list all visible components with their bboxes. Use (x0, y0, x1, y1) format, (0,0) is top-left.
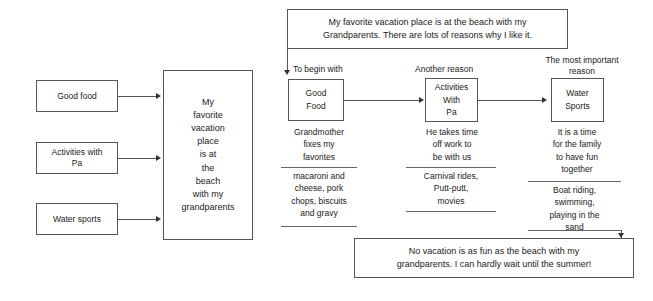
connector-column2-to-column3 (478, 100, 543, 101)
arrowhead-column1-to-column2 (419, 97, 424, 103)
diagram-canvas: Good food Activities with Pa Water sport… (0, 0, 653, 301)
reason-box-good-food[interactable]: Good Food (288, 79, 344, 121)
detail-column3-line3: to have fun (556, 152, 598, 162)
detail-column3-line1: It is a time (558, 127, 597, 137)
detail-column1-line3: favorites (303, 152, 335, 162)
example-column2-line1: Carnival rides, (424, 171, 478, 181)
input-box-water-sports-label: Water sports (50, 214, 104, 225)
example-column3-line2: swimming, (554, 197, 594, 207)
transition-column3-line2: reason (569, 66, 595, 76)
rule-column2-upper (406, 167, 496, 168)
thesis-box[interactable]: My favorite vacation place is at the bea… (163, 70, 253, 240)
detail-text-column1: Grandmother fixes my favorites (281, 126, 357, 163)
transition-label-column1: To begin with (293, 64, 343, 75)
arrowhead-topic-to-column1 (284, 70, 290, 75)
transition-label-column2: Another reason (415, 64, 473, 75)
input-box-activities-line2: Pa (72, 158, 82, 168)
example-column3-line3: playing in the (549, 210, 599, 220)
arrowhead-good-food (156, 93, 161, 99)
input-box-activities-label: Activities with Pa (48, 147, 105, 169)
reason-box-activities[interactable]: Activities With Pa (425, 78, 478, 122)
connector-column1-to-column2 (344, 100, 420, 101)
input-box-water-sports[interactable]: Water sports (36, 203, 118, 235)
reason-box-good-food-label: Good Food (303, 87, 330, 113)
reason-box-water-sports[interactable]: Water Sports (551, 78, 604, 122)
reason-box-good-food-line2: Food (306, 101, 325, 111)
thesis-line-7: beach (196, 176, 221, 186)
thesis-line-2: favorite (193, 110, 223, 120)
thesis-line-9: grandparents (181, 202, 234, 212)
input-box-good-food-label: Good food (54, 91, 100, 102)
detail-column3-line2: for the family (553, 139, 602, 149)
rule-column3-upper (528, 181, 621, 182)
thesis-line-1: My (202, 97, 214, 107)
transition-column3-line1: The most important (545, 55, 618, 65)
thesis-line-8: with my (193, 189, 224, 199)
topic-sentence-text: My favorite vacation place is at the bea… (320, 16, 535, 42)
reason-box-activities-line1: Activities (435, 82, 469, 92)
reason-box-activities-line2: With (443, 95, 460, 105)
transition-label-column3: The most important reason (527, 55, 637, 77)
example-text-column2: Carnival rides, Putt-putt, movies (406, 170, 496, 207)
example-column1-line4: and gravy (300, 208, 337, 218)
example-column2-line3: movies (438, 196, 465, 206)
arrowhead-water-sports (156, 216, 161, 222)
reason-box-activities-line3: Pa (446, 107, 456, 117)
topic-sentence-line1: My favorite vacation place is at the bea… (328, 17, 526, 27)
topic-sentence-line2: Grandparents. There are lots of reasons … (323, 30, 532, 40)
thesis-line-6: the (202, 163, 215, 173)
reason-box-water-sports-label: Water Sports (562, 87, 593, 113)
input-box-activities-line1: Activities with (51, 147, 102, 157)
conclusion-line1: No vacation is as fun as the beach with … (409, 246, 580, 256)
example-column1-line1: macaroni and (293, 171, 345, 181)
conclusion-line2: grandparents. I can hardly wait until th… (397, 259, 592, 269)
detail-column1-line1: Grandmother (294, 127, 344, 137)
input-box-good-food[interactable]: Good food (36, 80, 118, 112)
detail-text-column3: It is a time for the family to have fun … (534, 126, 620, 175)
example-column1-line2: cheese, pork (295, 183, 344, 193)
reason-box-good-food-line1: Good (306, 88, 327, 98)
conclusion-box[interactable]: No vacation is as fun as the beach with … (354, 238, 634, 278)
detail-column2-line3: be with us (433, 152, 471, 162)
detail-column2-line1: He takes time (426, 127, 478, 137)
detail-text-column2: He takes time off work to be with us (413, 126, 491, 163)
example-text-column3: Boat riding, swimming, playing in the sa… (528, 184, 621, 233)
example-column2-line2: Putt-putt, (434, 183, 469, 193)
example-column1-line3: chops, biscuits (291, 196, 347, 206)
arrowhead-column2-to-column3 (542, 97, 547, 103)
thesis-line-4: place (197, 136, 219, 146)
topic-sentence-box[interactable]: My favorite vacation place is at the bea… (287, 9, 568, 49)
connector-water-sports (118, 219, 157, 220)
reason-box-water-sports-line1: Water (566, 88, 588, 98)
detail-column2-line2: off work to (432, 139, 471, 149)
arrowhead-activities (156, 155, 161, 161)
reason-box-water-sports-line2: Sports (565, 101, 590, 111)
reason-box-activities-label: Activities With Pa (432, 81, 472, 119)
connector-activities (118, 158, 157, 159)
conclusion-text: No vacation is as fun as the beach with … (394, 245, 595, 271)
thesis-box-text: My favorite vacation place is at the bea… (178, 96, 237, 213)
thesis-line-3: vacation (191, 123, 225, 133)
detail-column1-line2: fixes my (303, 139, 334, 149)
example-column3-line1: Boat riding, (553, 185, 596, 195)
rule-column3-lower (528, 230, 621, 231)
rule-column1-lower (281, 226, 357, 227)
connector-topic-to-column1 (287, 49, 288, 72)
thesis-line-5: is at (200, 149, 217, 159)
connector-good-food (118, 96, 157, 97)
input-box-activities[interactable]: Activities with Pa (36, 142, 118, 174)
rule-column2-lower (406, 211, 496, 212)
detail-column3-line4: together (561, 164, 592, 174)
rule-column1-upper (281, 167, 357, 168)
example-text-column1: macaroni and cheese, pork chops, biscuit… (281, 170, 357, 219)
